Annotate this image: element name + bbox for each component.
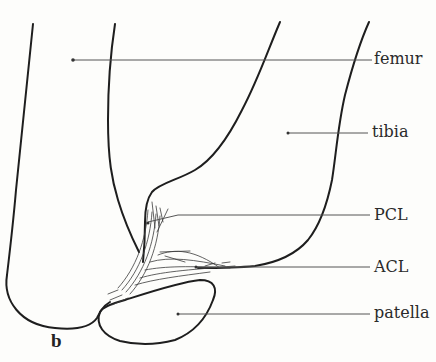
acl-label: ACL (374, 259, 408, 275)
femur-outline (6, 24, 110, 329)
tibia-label: tibia (372, 124, 408, 140)
patella-label: patella (374, 305, 429, 321)
femur-label: femur (374, 51, 423, 67)
femur-inner-outline (108, 24, 139, 252)
panel-letter: b (51, 331, 62, 350)
leader-dots (71, 58, 289, 315)
knee-drawing (0, 0, 436, 362)
patella-outline (99, 280, 215, 344)
tibia-right-outline (198, 22, 369, 268)
pcl-leader (148, 215, 370, 222)
pcl-label: PCL (374, 207, 408, 223)
leader-lines (73, 60, 372, 314)
tibia-left-outline (143, 22, 280, 262)
knee-anatomy-figure: femur tibia PCL ACL patella b (0, 0, 436, 362)
